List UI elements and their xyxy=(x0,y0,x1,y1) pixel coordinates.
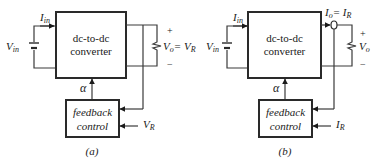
feedback-label-a-2: control xyxy=(77,120,108,132)
converter-diagrams: Iin Vin dc-to-dc converter + − Vo= VR α … xyxy=(0,0,380,166)
input-current-label-b: Iin xyxy=(232,11,243,25)
current-sensor-icon xyxy=(331,21,337,29)
converter-label-a-1: dc-to-dc xyxy=(73,32,110,44)
feedback-label-b-1: feedback xyxy=(266,106,306,118)
alpha-label-b: α xyxy=(273,81,280,95)
load-resistor-icon xyxy=(153,39,161,53)
output-current-label: Io= IR xyxy=(324,6,352,20)
alpha-label: α xyxy=(80,81,87,95)
input-voltage-label: Vin xyxy=(6,40,19,54)
reference-label-a: VR xyxy=(143,118,155,132)
load-resistor-icon xyxy=(348,39,356,53)
converter-label-b-1: dc-to-dc xyxy=(266,32,303,44)
converter-label-a-2: converter xyxy=(70,45,112,57)
output-voltage-label: Vo= VR xyxy=(163,40,196,54)
feedback-label-b-2: control xyxy=(270,120,301,132)
output-voltage-label-b: Vo xyxy=(359,40,370,54)
caption-b: (b) xyxy=(279,145,292,158)
plus-sign: + xyxy=(360,28,366,39)
minus-sign: − xyxy=(167,59,173,70)
input-voltage-label-b: Vin xyxy=(206,40,219,54)
caption-a: (a) xyxy=(86,145,99,158)
diagram-b: Iin Vin dc-to-dc converter + − Io= IR Vo… xyxy=(206,6,370,158)
plus-sign: + xyxy=(167,25,173,36)
converter-label-b-2: converter xyxy=(264,45,306,57)
diagram-a: Iin Vin dc-to-dc converter + − Vo= VR α … xyxy=(6,11,196,158)
reference-label-b: IR xyxy=(335,118,345,132)
input-source-a xyxy=(29,26,55,68)
input-current-label: Iin xyxy=(39,11,50,25)
feedback-label-a-1: feedback xyxy=(73,106,113,118)
minus-sign: − xyxy=(360,59,366,70)
